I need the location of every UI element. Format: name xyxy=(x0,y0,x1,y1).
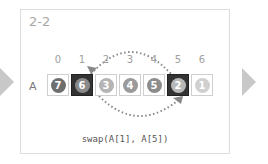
value-ball: 1 xyxy=(195,78,210,93)
array-cell: 6 xyxy=(71,74,93,96)
value-ball: 2 xyxy=(171,78,186,93)
array-label: A xyxy=(29,80,37,93)
next-step-arrow-icon[interactable] xyxy=(242,68,256,96)
array-cell: 3 xyxy=(95,74,117,96)
array-cell: 7 xyxy=(47,74,69,96)
index-label: 1 xyxy=(71,54,93,65)
lower-swap-arc xyxy=(99,96,183,116)
array-cell: 1 xyxy=(191,74,213,96)
value-ball: 7 xyxy=(51,78,66,93)
index-label: 4 xyxy=(143,54,165,65)
index-label: 5 xyxy=(167,54,189,65)
index-label: 3 xyxy=(119,54,141,65)
previous-step-arrow-icon[interactable] xyxy=(0,68,14,96)
value-ball: 6 xyxy=(75,78,90,93)
array-cell: 2 xyxy=(167,74,189,96)
index-label: 0 xyxy=(47,54,69,65)
swap-caption: swap(A[1], A[5]) xyxy=(21,134,229,144)
arrowhead-to-index-1-icon xyxy=(87,66,97,74)
value-ball: 3 xyxy=(99,78,114,93)
diagram-panel: 2-2 A 0123456 7634521 swap(A[1], A[5]) xyxy=(20,9,230,154)
index-label: 2 xyxy=(95,54,117,65)
value-ball: 4 xyxy=(123,78,138,93)
index-label: 6 xyxy=(191,54,213,65)
array-cell: 4 xyxy=(119,74,141,96)
array-cell: 5 xyxy=(143,74,165,96)
value-ball: 5 xyxy=(147,78,162,93)
